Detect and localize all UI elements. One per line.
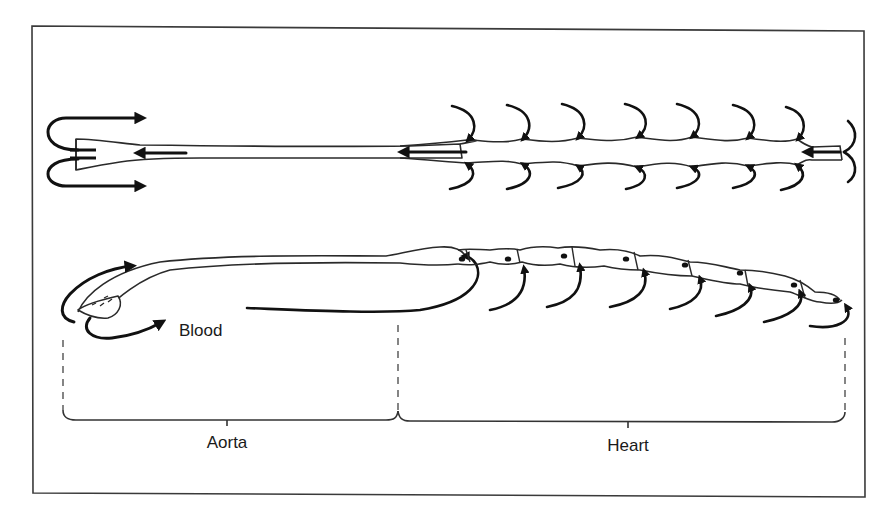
aorta-tube-top bbox=[76, 139, 462, 170]
aorta-outflow-arrow-lower bbox=[86, 318, 162, 338]
aorta-brace bbox=[63, 410, 398, 420]
aorta-side-lower bbox=[105, 263, 458, 311]
insect-dorsal-vessel-diagram: Blood Aorta Heart bbox=[0, 0, 887, 524]
aorta-mouth bbox=[78, 296, 120, 318]
posterior-inflow-arc-lower bbox=[844, 152, 855, 182]
ostia-arrows-top-lower bbox=[450, 164, 803, 190]
region-braces: Aorta Heart bbox=[63, 325, 845, 455]
dorsal-view bbox=[48, 104, 855, 190]
heart-tube-top-lower bbox=[400, 158, 842, 167]
heart-label: Heart bbox=[607, 436, 649, 455]
figure-frame bbox=[32, 26, 865, 497]
lateral-view: Blood bbox=[62, 247, 848, 340]
aorta-side-upper bbox=[78, 247, 466, 312]
ostia-arrows-top-upper bbox=[452, 104, 804, 140]
posterior-inflow-arc-upper bbox=[844, 121, 855, 152]
heart-side-upper bbox=[458, 247, 840, 300]
heart-brace bbox=[398, 411, 845, 422]
blood-label: Blood bbox=[179, 321, 222, 340]
aorta-label: Aorta bbox=[207, 433, 248, 452]
ostia-side bbox=[459, 253, 839, 302]
heart-tube-top-upper bbox=[400, 137, 842, 160]
